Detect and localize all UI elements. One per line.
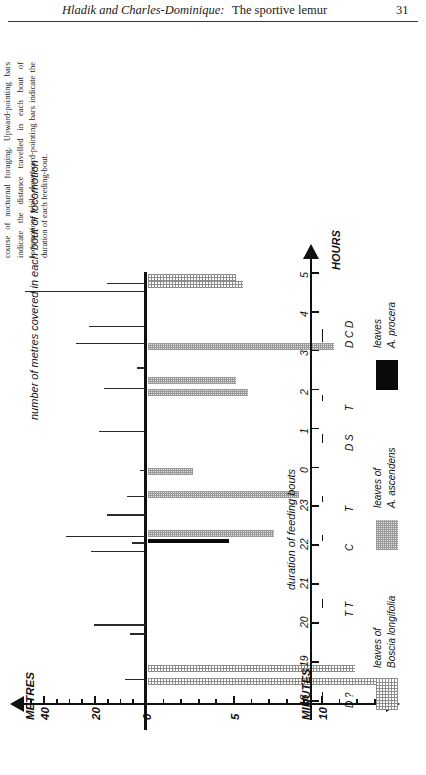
hour-tick bbox=[312, 272, 319, 274]
legend-swatch-boscia bbox=[376, 680, 398, 710]
page-number: 31 bbox=[396, 3, 409, 18]
feeding-bar bbox=[148, 343, 335, 350]
metres-tick bbox=[120, 699, 122, 704]
minutes-tick bbox=[251, 699, 253, 704]
event-label: C bbox=[344, 543, 355, 550]
minutes-tick bbox=[339, 699, 341, 704]
hour-tick bbox=[312, 428, 319, 430]
running-head-authors: Hladik and Charles-Dominique: bbox=[62, 3, 224, 18]
locomotion-bar bbox=[132, 542, 145, 544]
minutes-tick-label-10: 10 bbox=[317, 707, 329, 720]
event-tick bbox=[322, 336, 323, 342]
metres-tick bbox=[56, 699, 58, 704]
feeding-bar bbox=[148, 491, 299, 498]
metres-axis-label: METRES bbox=[24, 672, 36, 720]
legend-label-line1: leaves bbox=[372, 319, 385, 348]
metres-tick bbox=[69, 699, 71, 704]
locomotion-bar bbox=[66, 536, 145, 538]
hour-tick bbox=[312, 661, 319, 663]
event-tick bbox=[322, 692, 323, 698]
minutes-tick-label-5: 5 bbox=[229, 714, 241, 720]
hour-tick bbox=[312, 389, 319, 391]
running-head: Hladik and Charles-Dominique: The sporti… bbox=[0, 0, 426, 26]
event-tick bbox=[322, 437, 323, 443]
locomotion-bar bbox=[127, 496, 145, 498]
locomotion-bar bbox=[91, 551, 145, 553]
locomotion-bar bbox=[99, 431, 145, 433]
metres-axis-title: number of metres covered in each bout of… bbox=[28, 160, 40, 420]
minutes-tick bbox=[198, 699, 200, 704]
minutes-tick bbox=[233, 696, 235, 704]
feeding-bar bbox=[148, 539, 229, 543]
event-tick bbox=[322, 496, 323, 502]
hour-label-21: 21 bbox=[298, 578, 310, 590]
hour-tick bbox=[312, 622, 319, 624]
hour-tick bbox=[312, 311, 319, 313]
running-head-title: The sportive lemur bbox=[232, 3, 327, 18]
minutes-tick bbox=[215, 699, 217, 704]
locomotion-bar bbox=[137, 367, 145, 369]
feeding-bar bbox=[148, 468, 194, 475]
zero-tick bbox=[145, 696, 147, 704]
metres-tick-label-0: 0 bbox=[141, 714, 153, 720]
feeding-bar bbox=[148, 665, 356, 672]
feeding-bar bbox=[148, 377, 236, 384]
hour-tick bbox=[312, 583, 319, 585]
hour-tick bbox=[312, 467, 319, 469]
hours-axis-title: HOURS bbox=[330, 230, 342, 270]
metres-tick bbox=[81, 699, 83, 704]
legend-swatch-ascendens bbox=[376, 520, 398, 550]
event-label: D C D bbox=[344, 321, 355, 348]
metres-minutes-scale-line bbox=[18, 703, 393, 705]
hour-label-20: 20 bbox=[298, 616, 310, 628]
locomotion-bar bbox=[76, 343, 145, 345]
hour-label-2: 2 bbox=[298, 389, 310, 395]
legend-label-line2: A. ascendens bbox=[386, 447, 399, 508]
hour-tick bbox=[312, 350, 319, 352]
legend-label-line2: Boscia longifolia bbox=[386, 596, 399, 668]
locomotion-bar bbox=[94, 624, 145, 626]
minutes-tick bbox=[268, 699, 270, 704]
locomotion-bar bbox=[125, 679, 145, 681]
header-rule bbox=[8, 21, 418, 22]
metres-tick bbox=[107, 699, 109, 704]
event-label: T bbox=[344, 404, 355, 410]
legend-label-line1: leaves of bbox=[372, 468, 385, 508]
minutes-tick bbox=[286, 699, 288, 704]
hours-axis-line bbox=[310, 258, 312, 720]
legend-label-line1: leaves of bbox=[372, 628, 385, 668]
hour-tick bbox=[312, 700, 319, 702]
hour-tick bbox=[312, 544, 319, 546]
metres-tick bbox=[94, 696, 96, 704]
event-label: D ? bbox=[344, 693, 355, 709]
event-label: T bbox=[344, 506, 355, 512]
hour-label-1: 1 bbox=[298, 428, 310, 434]
hour-label-4: 4 bbox=[298, 311, 310, 317]
hour-label-19: 19 bbox=[298, 655, 310, 667]
minutes-tick bbox=[163, 699, 165, 704]
feeding-bar bbox=[148, 530, 275, 537]
event-tick bbox=[322, 535, 323, 541]
metres-tick bbox=[132, 699, 134, 704]
minutes-tick bbox=[356, 699, 358, 704]
minutes-tick bbox=[180, 699, 182, 704]
metres-tick bbox=[18, 699, 20, 704]
minutes-axis-title: duration of feeding bouts bbox=[285, 469, 297, 590]
metres-tick-label-40: 40 bbox=[39, 707, 51, 720]
hours-axis-arrow bbox=[303, 244, 319, 259]
locomotion-bar bbox=[104, 388, 145, 390]
zero-axis-line bbox=[144, 272, 147, 730]
event-tick bbox=[322, 395, 323, 401]
locomotion-bar bbox=[89, 326, 145, 328]
hour-label-5: 5 bbox=[298, 272, 310, 278]
feeding-bar bbox=[148, 274, 236, 281]
event-tick bbox=[322, 602, 323, 608]
figure-plot-area: 40200510 METRES MINUTES 1819202122230123… bbox=[0, 250, 426, 775]
event-label: T T bbox=[344, 602, 355, 617]
legend-swatch-procera bbox=[376, 360, 398, 390]
locomotion-bar bbox=[130, 633, 145, 635]
locomotion-bar bbox=[140, 470, 145, 472]
feeding-bar bbox=[148, 389, 248, 396]
event-label: D S bbox=[344, 435, 355, 452]
metres-tick-label-20: 20 bbox=[90, 707, 102, 720]
